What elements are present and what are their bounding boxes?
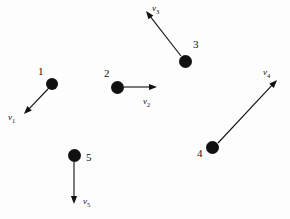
particle-dot-1 (46, 78, 58, 90)
vector-arrowhead-2 (149, 84, 157, 90)
vector-label-v3: v3 (152, 4, 159, 13)
vector-label-v5: v5 (83, 197, 90, 206)
vector-label-v4: v4 (263, 68, 270, 77)
particle-dot-4 (206, 141, 219, 154)
particle-dot-3 (179, 55, 192, 68)
vector-shaft-3 (150, 16, 181, 56)
particle-dot-2 (111, 81, 124, 94)
particle-dot-5 (68, 149, 81, 162)
particle-label-1: 1 (38, 66, 44, 77)
vector-label-v1: v1 (8, 113, 15, 122)
particle-label-3: 3 (193, 39, 199, 50)
vector-shaft-4 (218, 85, 273, 143)
physics-vector-diagram: 1 2 3 4 5 v1 v2 v3 v4 v5 (0, 0, 290, 219)
vector-label-v2: v2 (143, 97, 150, 106)
vector-canvas (0, 0, 290, 219)
particle-label-5: 5 (86, 152, 92, 163)
vector-shaft-1 (29, 89, 48, 109)
particle-label-2: 2 (104, 68, 110, 79)
vector-arrowhead-5 (71, 196, 77, 204)
particle-label-4: 4 (197, 148, 203, 159)
